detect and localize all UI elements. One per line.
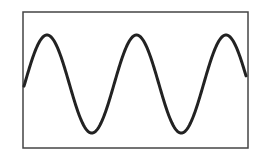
- sine-wave-diagram: [0, 0, 254, 158]
- frame-border: [23, 12, 248, 148]
- sine-wave-curve: [24, 35, 246, 133]
